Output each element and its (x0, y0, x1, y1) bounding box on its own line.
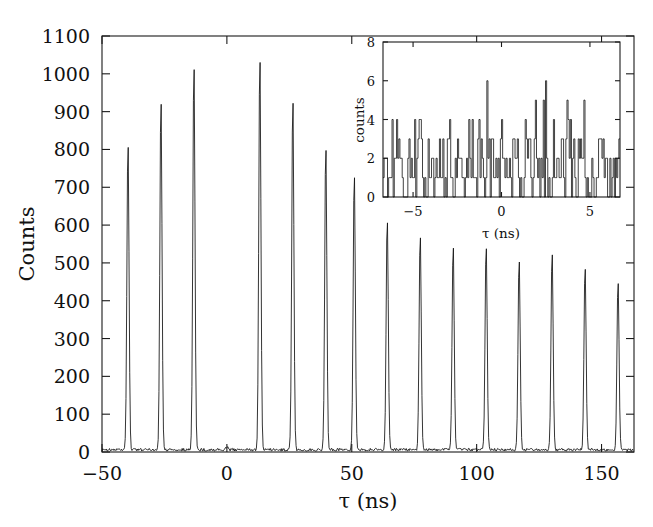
x-axis-title: τ (ns) (339, 489, 398, 513)
x-tick-label: 50 (340, 462, 364, 484)
inset-y-axis-title: counts (351, 97, 367, 143)
inset-y-tick-label: 4 (367, 113, 375, 128)
inset-y-tick-label: 0 (367, 190, 375, 205)
inset-x-tick-label: 5 (586, 204, 594, 219)
x-tick-label: −50 (82, 462, 122, 484)
inset-x-tick-label: 0 (497, 204, 505, 219)
y-tick-label: 200 (54, 365, 90, 387)
y-tick-label: 600 (54, 214, 90, 236)
inset-y-tick-label: 8 (367, 35, 375, 50)
y-axis-title: Counts (15, 207, 39, 282)
inset-y-tick-labels: 02468 (367, 35, 375, 205)
main-x-tick-labels: −50050100150 (82, 462, 620, 484)
y-tick-label: 1000 (42, 63, 90, 85)
y-tick-label: 1100 (42, 25, 90, 47)
y-tick-label: 500 (54, 252, 90, 274)
y-tick-label: 400 (54, 290, 90, 312)
y-tick-label: 100 (54, 403, 90, 425)
x-tick-label: 0 (221, 462, 233, 484)
coincidence-histogram-chart: 010020030040050060070080090010001100 −50… (0, 0, 653, 527)
y-tick-label: 900 (54, 101, 90, 123)
inset-y-tick-label: 2 (367, 151, 375, 166)
y-tick-label: 300 (54, 328, 90, 350)
y-tick-label: 0 (78, 441, 90, 463)
x-tick-label: 150 (583, 462, 619, 484)
y-tick-label: 800 (54, 138, 90, 160)
inset-x-tick-label: −5 (403, 204, 422, 219)
inset-y-tick-label: 6 (367, 74, 375, 89)
inset-panel: 02468 −505 counts τ (ns) (351, 35, 620, 241)
main-y-tick-labels: 010020030040050060070080090010001100 (42, 25, 90, 463)
inset-x-tick-labels: −505 (403, 204, 594, 219)
y-tick-label: 700 (54, 176, 90, 198)
figure-panel: 010020030040050060070080090010001100 −50… (0, 0, 653, 527)
inset-x-axis-title: τ (ns) (482, 225, 520, 241)
x-tick-label: 100 (459, 462, 495, 484)
